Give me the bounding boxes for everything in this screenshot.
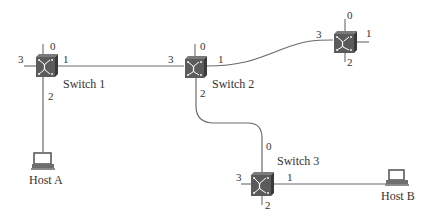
port-label-0: 0: [200, 40, 206, 52]
switch-label: Switch 1: [63, 77, 105, 91]
switch-4: 0 1 2 3: [316, 9, 372, 68]
host-a: Host A: [29, 153, 63, 187]
port-label-2: 2: [48, 90, 54, 102]
port-label-2: 2: [265, 199, 271, 211]
network-diagram: 0 1 2 3 Switch 1 0 1 2 3 Switch 2: [0, 0, 431, 222]
switch-3: 0 1 2 3 Switch 3: [236, 140, 319, 211]
host-label: Host B: [381, 189, 415, 203]
port-label-0: 0: [50, 40, 56, 52]
switch-label: Switch 2: [212, 77, 254, 91]
port-label-1: 1: [218, 53, 224, 65]
switch-icon: [251, 172, 274, 196]
laptop-icon: [31, 153, 55, 170]
link-switch2-switch3: [196, 77, 262, 172]
port-label-0: 0: [266, 140, 272, 152]
port-label-3: 3: [18, 53, 24, 65]
port-label-3: 3: [168, 53, 174, 65]
link-switch2-switch4: [206, 40, 333, 66]
host-b: Host B: [381, 170, 415, 203]
port-label-3: 3: [236, 171, 242, 183]
port-label-2: 2: [347, 56, 353, 68]
switch-icon: [36, 54, 58, 77]
switch-icon: [185, 56, 207, 78]
port-label-0: 0: [347, 9, 353, 21]
port-label-1: 1: [63, 53, 69, 65]
switch-label: Switch 3: [277, 154, 319, 168]
switch-2: 0 1 2 3 Switch 2: [168, 40, 254, 99]
switch-1: 0 1 2 3 Switch 1: [18, 40, 105, 102]
host-label: Host A: [29, 173, 63, 187]
laptop-icon: [385, 170, 409, 186]
port-label-3: 3: [316, 28, 322, 40]
switch-icon: [334, 31, 357, 53]
port-label-2: 2: [200, 87, 206, 99]
port-label-1: 1: [366, 27, 372, 39]
port-label-1: 1: [287, 171, 293, 183]
